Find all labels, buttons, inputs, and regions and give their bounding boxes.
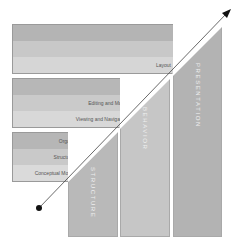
column-mask-presentation	[173, 24, 222, 76]
column-mask-behavior	[120, 76, 170, 129]
column-mask-structure	[68, 128, 118, 182]
layered-model-diagram: STRUCTURE BEHAVIOR PRESENTATION Text Sty…	[0, 0, 240, 248]
arrow-start-dot	[36, 205, 42, 211]
progression-arrow-line	[39, 13, 227, 208]
diagonal-overlay	[0, 0, 240, 248]
